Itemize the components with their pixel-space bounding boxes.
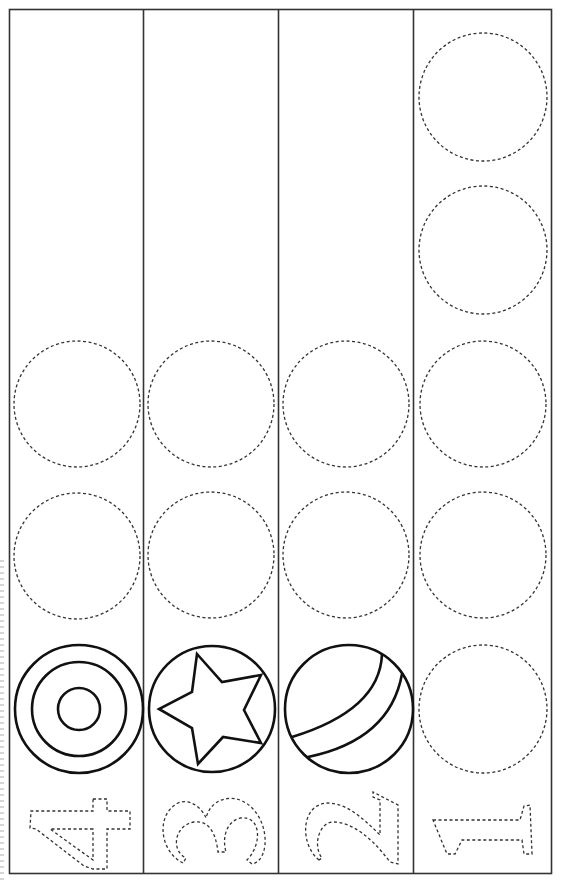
- trace-circle[interactable]: [419, 186, 547, 314]
- trace-circle[interactable]: [420, 492, 546, 618]
- target-icon: [15, 645, 143, 773]
- trace-number-2[interactable]: [306, 792, 398, 864]
- trace-number-1[interactable]: [433, 805, 532, 854]
- trace-circle[interactable]: [14, 341, 140, 467]
- trace-circle[interactable]: [283, 492, 409, 618]
- trace-circle[interactable]: [148, 341, 274, 467]
- trace-circle[interactable]: [283, 341, 409, 467]
- trace-circle[interactable]: [419, 645, 547, 773]
- star-icon: [149, 646, 275, 772]
- trace-circle[interactable]: [14, 493, 140, 619]
- worksheet-frame: [10, 10, 552, 874]
- trace-circle[interactable]: [420, 341, 546, 467]
- ball-icon: [285, 645, 413, 773]
- counting-worksheet: [0, 0, 562, 886]
- trace-circle[interactable]: [419, 33, 547, 161]
- trace-circle[interactable]: [148, 492, 274, 618]
- trace-number-3[interactable]: [163, 798, 265, 864]
- trace-number-4[interactable]: [30, 799, 130, 869]
